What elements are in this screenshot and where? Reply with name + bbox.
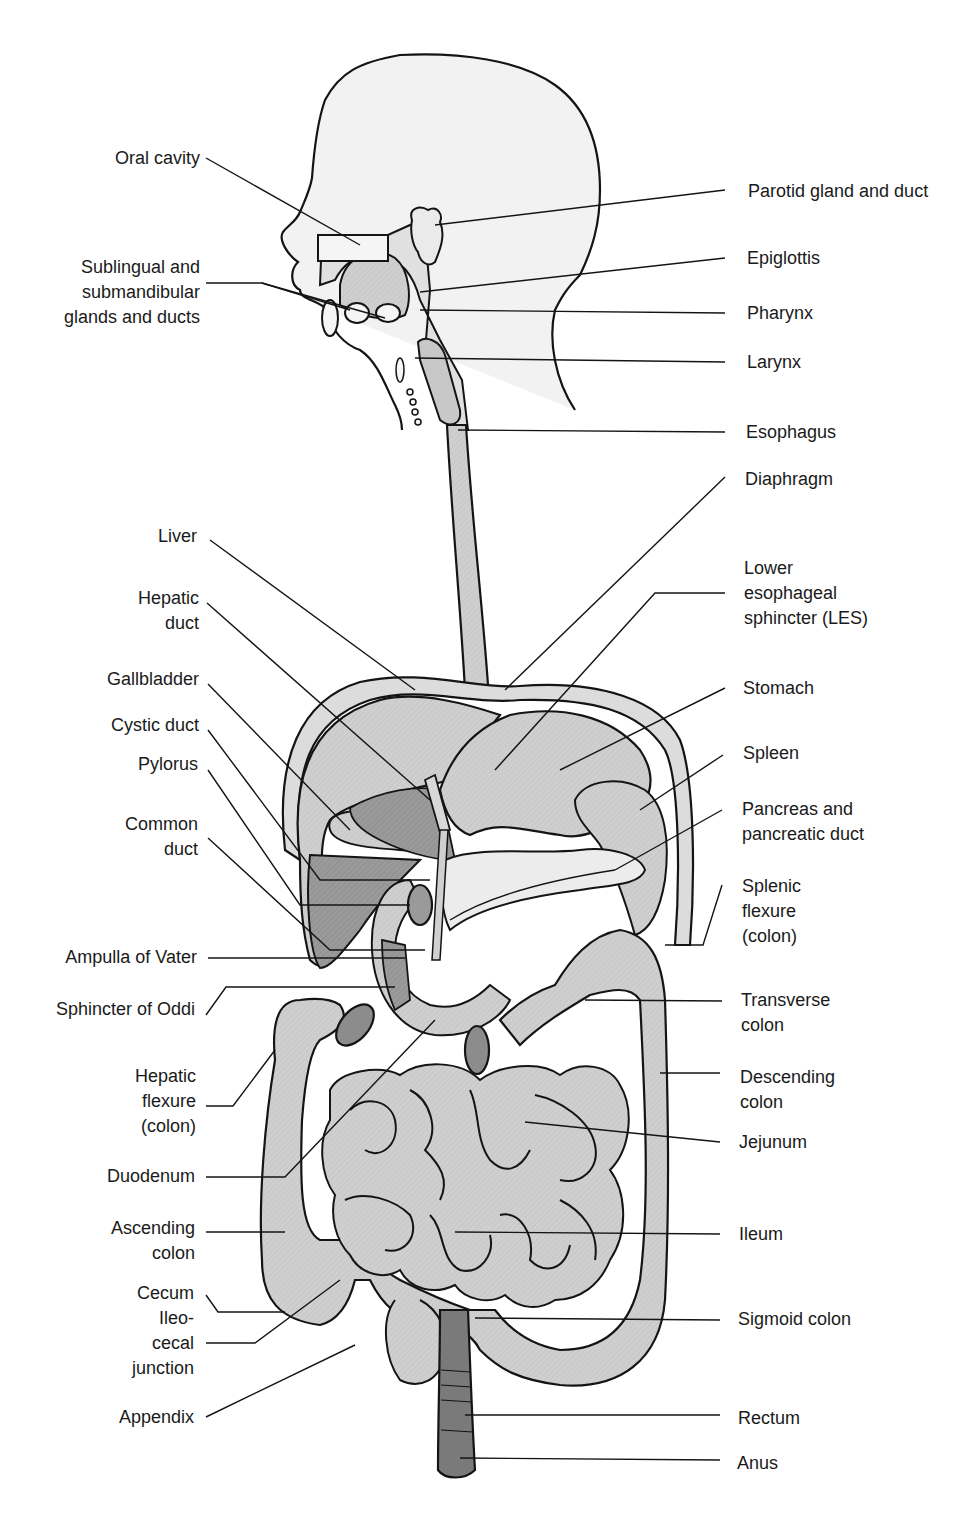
label-line: Gallbladder: [107, 667, 199, 692]
label-line: flexure: [135, 1089, 196, 1114]
label-spleen: Spleen: [743, 741, 799, 766]
esophagus: [447, 425, 488, 690]
label-splenic-flexure: Splenicflexure(colon): [742, 874, 801, 949]
label-line: Common: [125, 812, 198, 837]
label-sigmoid-colon: Sigmoid colon: [738, 1307, 851, 1332]
leader-line-anus: [460, 1458, 720, 1460]
label-parotid-gland: Parotid gland and duct: [748, 179, 928, 204]
label-line: Anus: [737, 1451, 778, 1476]
label-line: Esophagus: [746, 420, 836, 445]
label-line: colon: [111, 1241, 195, 1266]
pylorus-ring: [408, 885, 432, 925]
label-line: glands and ducts: [64, 305, 200, 330]
leader-line-hepatic-flexure: [206, 1050, 275, 1106]
label-ampulla-of-vater: Ampulla of Vater: [65, 945, 197, 970]
label-jejunum: Jejunum: [739, 1130, 807, 1155]
leader-line-transverse-colon: [585, 1000, 722, 1001]
label-pylorus: Pylorus: [138, 752, 198, 777]
label-gallbladder: Gallbladder: [107, 667, 199, 692]
label-line: junction: [132, 1356, 194, 1381]
label-stomach: Stomach: [743, 676, 814, 701]
label-epiglottis: Epiglottis: [747, 246, 820, 271]
label-line: flexure: [742, 899, 801, 924]
label-hepatic-duct: Hepaticduct: [138, 586, 199, 636]
label-line: Pancreas and: [742, 797, 864, 822]
label-line: (colon): [742, 924, 801, 949]
label-common-duct: Commonduct: [125, 812, 198, 862]
label-line: Stomach: [743, 676, 814, 701]
label-les: Loweresophagealsphincter (LES): [744, 556, 868, 631]
label-pancreas: Pancreas andpancreatic duct: [742, 797, 864, 847]
leader-line-diaphragm: [505, 477, 725, 690]
rectum: [438, 1310, 475, 1478]
label-line: Rectum: [738, 1406, 800, 1431]
label-line: Cystic duct: [111, 713, 199, 738]
label-cecum: Cecum: [137, 1281, 194, 1306]
label-line: Splenic: [742, 874, 801, 899]
label-line: Transverse: [741, 988, 830, 1013]
label-rectum: Rectum: [738, 1406, 800, 1431]
label-line: Diaphragm: [745, 467, 833, 492]
label-line: Lower: [744, 556, 868, 581]
label-line: Ileo-: [132, 1306, 194, 1331]
label-hepatic-flexure: Hepaticflexure(colon): [135, 1064, 196, 1139]
label-line: colon: [741, 1013, 830, 1038]
label-line: esophageal: [744, 581, 868, 606]
label-line: Hepatic: [135, 1064, 196, 1089]
label-line: submandibular: [64, 280, 200, 305]
leader-line-appendix: [206, 1345, 355, 1417]
label-line: duct: [138, 611, 199, 636]
label-line: Pylorus: [138, 752, 198, 777]
label-line: Epiglottis: [747, 246, 820, 271]
label-line: Pharynx: [747, 301, 813, 326]
label-sublingual-submandibular: Sublingual andsubmandibularglands and du…: [64, 255, 200, 330]
label-transverse-colon: Transversecolon: [741, 988, 830, 1038]
label-line: Liver: [158, 524, 197, 549]
label-line: Parotid gland and duct: [748, 179, 928, 204]
colon-cut-right: [465, 1026, 489, 1074]
label-sphincter-of-oddi: Sphincter of Oddi: [56, 997, 195, 1022]
pancreas: [442, 849, 645, 930]
label-line: Sigmoid colon: [738, 1307, 851, 1332]
label-line: Appendix: [119, 1405, 194, 1430]
label-line: Sublingual and: [64, 255, 200, 280]
label-line: duct: [125, 837, 198, 862]
label-line: Descending: [740, 1065, 835, 1090]
label-line: Ampulla of Vater: [65, 945, 197, 970]
label-line: Jejunum: [739, 1130, 807, 1155]
label-appendix: Appendix: [119, 1405, 194, 1430]
label-ascending-colon: Ascendingcolon: [111, 1216, 195, 1266]
label-line: Larynx: [747, 350, 801, 375]
label-line: Cecum: [137, 1281, 194, 1306]
label-line: Sphincter of Oddi: [56, 997, 195, 1022]
label-line: (colon): [135, 1114, 196, 1139]
label-ileum: Ileum: [739, 1222, 783, 1247]
label-line: sphincter (LES): [744, 606, 868, 631]
leader-line-sigmoid-colon: [475, 1318, 720, 1320]
label-duodenum: Duodenum: [107, 1164, 195, 1189]
label-descending-colon: Descendingcolon: [740, 1065, 835, 1115]
label-pharynx: Pharynx: [747, 301, 813, 326]
label-line: Spleen: [743, 741, 799, 766]
label-anus: Anus: [737, 1451, 778, 1476]
label-ileocecal-junction: Ileo-cecaljunction: [132, 1306, 194, 1381]
label-line: Ascending: [111, 1216, 195, 1241]
label-diaphragm: Diaphragm: [745, 467, 833, 492]
label-esophagus: Esophagus: [746, 420, 836, 445]
label-oral-cavity: Oral cavity: [115, 146, 200, 171]
label-line: colon: [740, 1090, 835, 1115]
label-line: Duodenum: [107, 1164, 195, 1189]
label-line: cecal: [132, 1331, 194, 1356]
leader-line-esophagus: [458, 430, 725, 432]
label-line: Hepatic: [138, 586, 199, 611]
label-line: pancreatic duct: [742, 822, 864, 847]
label-liver: Liver: [158, 524, 197, 549]
label-larynx: Larynx: [747, 350, 801, 375]
label-line: Oral cavity: [115, 146, 200, 171]
leader-line-liver: [210, 540, 415, 690]
label-cystic-duct: Cystic duct: [111, 713, 199, 738]
label-line: Ileum: [739, 1222, 783, 1247]
